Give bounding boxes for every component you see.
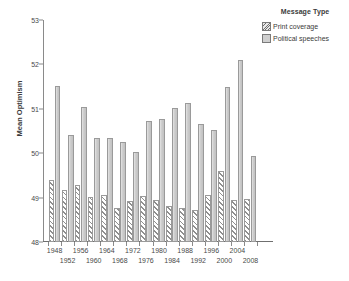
x-axis-tick-label: 1964 xyxy=(99,247,115,254)
chart-figure: Message Type Print coverage Political sp… xyxy=(0,0,349,281)
bar-political-speeches xyxy=(185,103,191,242)
x-axis-tick-label: 1988 xyxy=(177,247,193,254)
x-axis-tick-label: 1948 xyxy=(47,247,63,254)
x-axis-tick-mark xyxy=(113,242,114,246)
x-axis-tick-mark xyxy=(61,242,62,246)
bar-political-speeches xyxy=(94,138,100,242)
bar-political-speeches xyxy=(225,87,231,242)
bar-political-speeches xyxy=(146,121,152,242)
x-axis-tick-mark xyxy=(100,242,101,246)
x-axis-tick-mark xyxy=(126,242,127,246)
y-axis-tick-mark xyxy=(39,64,43,65)
legend-swatch-hatch-icon xyxy=(262,22,271,31)
legend-label-political-speeches: Political speeches xyxy=(273,34,329,43)
bar-print-coverage xyxy=(127,201,133,242)
bar-print-coverage xyxy=(75,185,81,242)
y-axis-line xyxy=(43,20,44,242)
x-axis-tick-mark xyxy=(166,242,167,246)
bar-print-coverage xyxy=(231,200,237,242)
legend-swatch-solid-icon xyxy=(262,34,271,43)
y-axis-label: Mean Optimism xyxy=(15,64,24,154)
x-axis-tick-mark xyxy=(153,242,154,246)
x-axis-tick-label: 1960 xyxy=(86,257,102,264)
x-axis-tick-mark xyxy=(48,242,49,246)
bar-print-coverage xyxy=(218,171,224,242)
bar-political-speeches xyxy=(172,108,178,242)
x-axis-tick-mark xyxy=(257,242,258,246)
x-axis-tick-mark xyxy=(218,242,219,246)
bar-political-speeches xyxy=(238,60,244,242)
x-axis-tick-label: 1996 xyxy=(203,247,219,254)
bar-print-coverage xyxy=(166,206,172,242)
x-axis-tick-mark xyxy=(192,242,193,246)
bar-political-speeches xyxy=(68,135,74,242)
x-axis-tick-label: 2004 xyxy=(230,247,246,254)
plot-area: 4849505152531948195219561960196419681972… xyxy=(43,20,263,242)
bar-print-coverage xyxy=(140,196,146,242)
bar-political-speeches xyxy=(211,130,217,242)
bar-print-coverage xyxy=(192,210,198,242)
x-axis-tick-label: 1992 xyxy=(190,257,206,264)
bar-print-coverage xyxy=(244,199,250,242)
bar-print-coverage xyxy=(49,180,55,242)
x-axis-tick-label: 2000 xyxy=(217,257,233,264)
legend-title: Message Type xyxy=(262,8,348,15)
bar-political-speeches xyxy=(159,119,165,242)
x-axis-tick-mark xyxy=(231,242,232,246)
legend-item-print-coverage[interactable]: Print coverage xyxy=(262,21,348,31)
y-axis-tick-mark xyxy=(39,197,43,198)
x-axis-tick-label: 2008 xyxy=(243,257,259,264)
bar-political-speeches xyxy=(251,156,257,242)
bar-print-coverage xyxy=(62,190,68,242)
bar-political-speeches xyxy=(198,124,204,242)
y-axis-tick-mark xyxy=(39,153,43,154)
bar-print-coverage xyxy=(153,200,159,242)
bar-political-speeches xyxy=(120,142,126,242)
bar-political-speeches xyxy=(55,86,61,242)
bar-print-coverage xyxy=(179,208,185,242)
x-axis-tick-mark xyxy=(87,242,88,246)
x-axis-tick-mark xyxy=(244,242,245,246)
y-axis-tick-mark xyxy=(39,20,43,21)
x-axis-tick-label: 1972 xyxy=(125,247,141,254)
bar-print-coverage xyxy=(205,195,211,242)
x-axis-tick-mark xyxy=(179,242,180,246)
x-axis-tick-label: 1980 xyxy=(151,247,167,254)
legend-item-political-speeches[interactable]: Political speeches xyxy=(262,33,348,43)
bar-political-speeches xyxy=(107,138,113,242)
bar-political-speeches xyxy=(81,107,87,242)
x-axis-tick-label: 1968 xyxy=(112,257,128,264)
bar-political-speeches xyxy=(133,152,139,242)
legend-label-print-coverage: Print coverage xyxy=(273,22,318,31)
x-axis-tick-label: 1976 xyxy=(138,257,154,264)
x-axis-tick-label: 1984 xyxy=(164,257,180,264)
x-axis-tick-mark xyxy=(205,242,206,246)
y-axis-tick-mark xyxy=(39,108,43,109)
bar-print-coverage xyxy=(114,208,120,242)
x-axis-tick-label: 1952 xyxy=(60,257,76,264)
x-axis-tick-mark xyxy=(139,242,140,246)
bar-print-coverage xyxy=(88,197,94,242)
chart-legend: Message Type Print coverage Political sp… xyxy=(262,8,348,45)
bar-print-coverage xyxy=(101,195,107,242)
x-axis-tick-label: 1956 xyxy=(73,247,89,254)
x-axis-tick-mark xyxy=(74,242,75,246)
y-axis-tick-mark xyxy=(39,242,43,243)
